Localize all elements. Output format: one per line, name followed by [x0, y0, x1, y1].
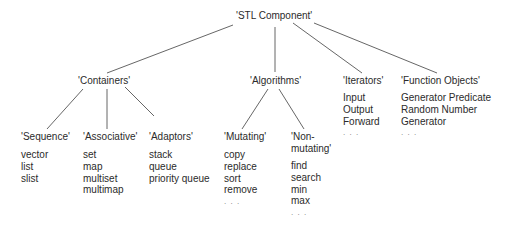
list-item: replace	[224, 161, 257, 173]
list-item: multiset	[83, 173, 124, 185]
list-item: Random Number	[401, 104, 491, 116]
subcategory-mutating-label: 'Mutating'	[224, 131, 266, 143]
list-item: vector	[21, 149, 48, 161]
list-item: stack	[149, 149, 210, 161]
edge-algorithms-mutating	[242, 89, 268, 129]
category-function-objects-label: 'Function Objects'	[401, 75, 480, 87]
list-item: remove	[224, 184, 257, 196]
subcategory-sequence: 'Sequence'	[21, 131, 70, 143]
list-item: list	[21, 161, 48, 173]
category-algorithms: 'Algorithms'	[250, 75, 301, 87]
adaptors-items: stack queue priority queue	[149, 149, 210, 184]
list-item: slist	[21, 173, 48, 185]
edge-root-iterators	[293, 23, 362, 73]
edge-root-function-objects	[314, 23, 437, 73]
function-objects-items: Generator Predicate Random Number Genera…	[401, 92, 491, 139]
category-containers-label: 'Containers'	[78, 75, 130, 87]
category-algorithms-label: 'Algorithms'	[250, 75, 301, 87]
list-item-ellipsis: . . .	[224, 196, 257, 208]
list-item: sort	[224, 173, 257, 185]
list-item-ellipsis: . . .	[291, 207, 321, 219]
list-item-ellipsis: . . .	[401, 127, 491, 139]
subcategory-non-mutating-label-line1: 'Non-	[291, 131, 331, 143]
list-item: Forward	[343, 116, 380, 128]
list-item: queue	[149, 161, 210, 173]
subcategory-mutating: 'Mutating'	[224, 131, 266, 143]
list-item: set	[83, 149, 124, 161]
subcategory-non-mutating: 'Non- mutating'	[291, 131, 331, 155]
list-item: find	[291, 160, 321, 172]
associative-items: set map multiset multimap	[83, 149, 124, 196]
root-label: 'STL Component'	[236, 10, 312, 22]
subcategory-non-mutating-label-line2: mutating'	[291, 143, 331, 155]
edge-root-containers	[107, 25, 233, 73]
list-item: multimap	[83, 184, 124, 196]
iterators-items: Input Output Forward . . .	[343, 92, 380, 139]
list-item: priority queue	[149, 173, 210, 185]
list-item: search	[291, 172, 321, 184]
list-item: copy	[224, 149, 257, 161]
category-iterators-label: 'Iterators'	[343, 75, 384, 87]
list-item: map	[83, 161, 124, 173]
stl-component-tree-diagram: 'STL Component' 'Containers' 'Algorithms…	[0, 0, 508, 226]
list-item: Generator	[401, 116, 491, 128]
list-item-ellipsis: . . .	[343, 127, 380, 139]
edge-algorithms-nonmutating	[279, 89, 304, 129]
subcategory-adaptors: 'Adaptors'	[149, 131, 193, 143]
root-node: 'STL Component'	[236, 10, 312, 22]
list-item: Input	[343, 92, 380, 104]
category-containers: 'Containers'	[78, 75, 130, 87]
list-item: Output	[343, 104, 380, 116]
sequence-items: vector list slist	[21, 149, 48, 184]
edge-containers-sequence	[47, 89, 83, 129]
list-item: max	[291, 195, 321, 207]
subcategory-sequence-label: 'Sequence'	[21, 131, 70, 143]
edge-containers-adaptors	[125, 87, 154, 116]
subcategory-adaptors-label: 'Adaptors'	[149, 131, 193, 143]
mutating-items: copy replace sort remove . . .	[224, 149, 257, 208]
list-item: min	[291, 184, 321, 196]
list-item: Generator Predicate	[401, 92, 491, 104]
category-function-objects: 'Function Objects'	[401, 75, 480, 87]
subcategory-associative-label: 'Associative'	[83, 131, 137, 143]
non-mutating-items: find search min max . . .	[291, 160, 321, 219]
subcategory-associative: 'Associative'	[83, 131, 137, 143]
category-iterators: 'Iterators'	[343, 75, 384, 87]
